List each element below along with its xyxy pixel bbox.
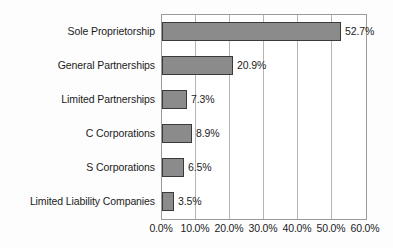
bar-limited-partnerships (162, 90, 187, 109)
bar-slot: 7.3% (162, 83, 366, 117)
x-tick-label: 0.0% (149, 222, 172, 234)
bar-slot: 20.9% (162, 49, 366, 83)
category-label: S Corporations (86, 162, 155, 173)
bar-slot: 8.9% (162, 117, 366, 151)
category-label-row: Limited Liability Companies (0, 184, 155, 218)
category-axis: Sole Proprietorship General Partnerships… (0, 14, 158, 218)
bar-value-label: 7.3% (191, 91, 215, 108)
bar-slot: 6.5% (162, 151, 366, 185)
x-tick-label: 40.0% (283, 222, 312, 234)
category-label-row: General Partnerships (0, 48, 155, 82)
bar-value-label: 20.9% (237, 57, 266, 74)
category-label: Limited Liability Companies (30, 196, 155, 207)
category-label: Limited Partnerships (61, 94, 155, 105)
category-label: C Corporations (86, 128, 155, 139)
x-axis: 0.0% 10.0% 20.0% 30.0% 40.0% 50.0% 60.0% (161, 220, 365, 240)
x-tick-label: 10.0% (181, 222, 210, 234)
category-label-row: S Corporations (0, 150, 155, 184)
bar-c-corporations (162, 124, 192, 143)
bar-chart: Sole Proprietorship General Partnerships… (0, 0, 393, 248)
bars-layer: 52.7% 20.9% 7.3% 8.9% 6.5% 3.5% (162, 15, 366, 219)
x-tick-label: 30.0% (249, 222, 278, 234)
category-label-row: C Corporations (0, 116, 155, 150)
bar-limited-liability-companies (162, 192, 174, 211)
plot-area: 52.7% 20.9% 7.3% 8.9% 6.5% 3.5% (161, 14, 367, 220)
category-label: General Partnerships (58, 60, 155, 71)
bar-sole-proprietorship (162, 22, 341, 41)
category-label-row: Sole Proprietorship (0, 14, 155, 48)
bar-value-label: 52.7% (345, 23, 374, 40)
category-label: Sole Proprietorship (68, 26, 155, 37)
bar-slot: 3.5% (162, 185, 366, 219)
x-tick-label: 20.0% (215, 222, 244, 234)
bar-value-label: 8.9% (196, 125, 220, 142)
x-tick-label: 50.0% (317, 222, 346, 234)
bar-general-partnerships (162, 56, 233, 75)
bar-value-label: 6.5% (188, 159, 212, 176)
bar-s-corporations (162, 158, 184, 177)
bar-slot: 52.7% (162, 15, 366, 49)
bar-value-label: 3.5% (178, 193, 202, 210)
x-tick-label: 60.0% (351, 222, 380, 234)
category-label-row: Limited Partnerships (0, 82, 155, 116)
